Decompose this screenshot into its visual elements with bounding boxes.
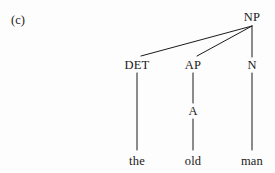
tree-edge-np-det xyxy=(141,26,252,56)
tree-leaf-man: man xyxy=(241,155,263,168)
tree-edge-np-ap xyxy=(197,26,252,56)
tree-node-n: N xyxy=(247,59,256,72)
tree-node-np: NP xyxy=(244,11,260,24)
tree-node-det: DET xyxy=(125,59,150,72)
tree-leaf-old: old xyxy=(185,155,202,168)
tree-edges xyxy=(0,0,275,173)
syntax-tree-figure: (c) NPDETAPNAtheoldman xyxy=(0,0,275,173)
tree-node-ap: AP xyxy=(185,59,201,72)
tree-node-a: A xyxy=(188,105,197,118)
tree-leaf-the: the xyxy=(129,155,145,168)
